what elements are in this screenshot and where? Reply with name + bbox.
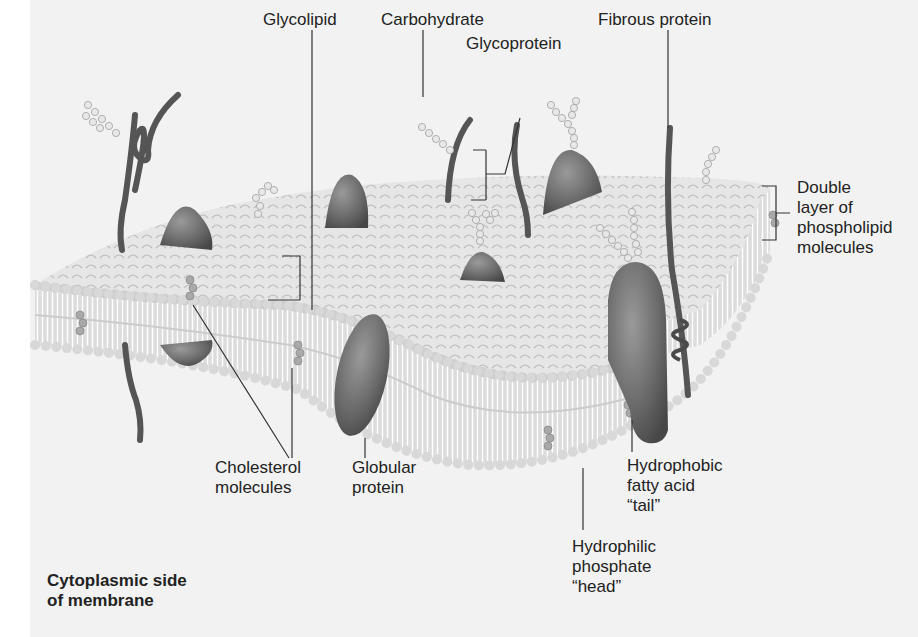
carbohydrate-chain-2: [418, 123, 453, 153]
label-double-layer: Double layer of phospholipid molecules: [797, 178, 892, 258]
label-cytoplasmic-line-2: of membrane: [47, 591, 187, 611]
label-hydrophilic-line-1: Hydrophilic: [572, 537, 656, 557]
label-cholesterol-line-2: molecules: [215, 478, 301, 498]
label-double-layer-line-1: Double: [797, 178, 892, 198]
label-hydrophilic-line-3: “head”: [572, 577, 656, 597]
label-hydrophilic-line-2: phosphate: [572, 557, 656, 577]
carbohydrate-chain-1: [82, 101, 119, 136]
label-carbohydrate: Carbohydrate: [381, 10, 484, 30]
label-cholesterol: Cholesterol molecules: [215, 458, 301, 498]
label-globular-protein: Globular protein: [352, 458, 416, 498]
carbohydrate-chain-3: [547, 97, 579, 148]
label-globular-protein-line-1: Globular: [352, 458, 416, 478]
label-hydrophobic-line-1: Hydrophobic: [627, 456, 722, 476]
label-hydrophobic-line-2: fatty acid: [627, 476, 722, 496]
label-globular-protein-line-2: protein: [352, 478, 416, 498]
label-cytoplasmic-line-1: Cytoplasmic side: [47, 571, 187, 591]
label-double-layer-line-3: phospholipid: [797, 218, 892, 238]
label-cholesterol-line-1: Cholesterol: [215, 458, 301, 478]
label-glycoprotein: Glycoprotein: [466, 34, 561, 54]
label-double-layer-line-4: molecules: [797, 238, 892, 258]
label-hydrophobic-line-3: “tail”: [627, 496, 722, 516]
label-glycolipid: Glycolipid: [263, 10, 337, 30]
membrane-diagram: Glycolipid Carbohydrate Glycoprotein Fib…: [0, 0, 918, 637]
label-hydrophobic-tail: Hydrophobic fatty acid “tail”: [627, 456, 722, 516]
membrane-illustration: [0, 0, 918, 637]
carbohydrate-chain-7: [702, 146, 719, 183]
label-fibrous-protein: Fibrous protein: [598, 10, 711, 30]
label-hydrophilic-head: Hydrophilic phosphate “head”: [572, 537, 656, 597]
label-cytoplasmic-side: Cytoplasmic side of membrane: [47, 571, 187, 611]
label-double-layer-line-2: layer of: [797, 198, 892, 218]
